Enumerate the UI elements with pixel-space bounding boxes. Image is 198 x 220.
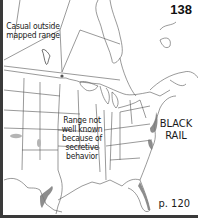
page-reference: p. 120 — [159, 198, 190, 210]
range-map: 138 Casual outside mapped range Range no… — [0, 0, 198, 220]
casual-annotation: Casual outside mapped range — [4, 22, 62, 40]
range-annotation: Range not well known because of secretiv… — [60, 116, 104, 161]
casual-annotation-line: mapped range — [4, 31, 62, 40]
page-number: 138 — [170, 2, 192, 17]
species-name-line: RAIL — [156, 130, 196, 142]
species-name-line: BLACK — [156, 118, 196, 130]
species-label: BLACK RAIL — [156, 118, 196, 141]
range-annotation-line: behavior — [60, 152, 104, 161]
